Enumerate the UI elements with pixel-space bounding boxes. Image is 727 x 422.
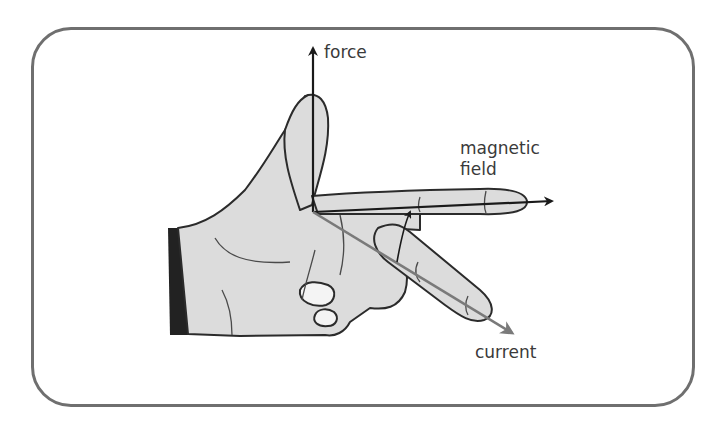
force-label: force [324,42,367,63]
magnetic-field-label: magnetic field [460,138,540,180]
hand [178,95,527,336]
left-hand-rule-illustration [0,0,727,422]
magnetic-field-label-line2: field [460,159,540,180]
current-label: current [475,342,536,363]
magnetic-field-label-line1: magnetic [460,138,540,159]
